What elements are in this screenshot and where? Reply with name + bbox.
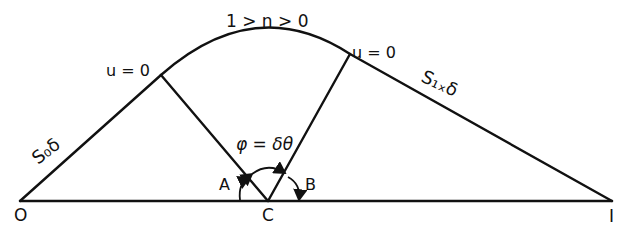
segment-right-junction-i <box>350 54 612 201</box>
point-o-label: O <box>14 205 27 225</box>
right-junction-label: u = 0 <box>352 43 396 62</box>
angle-a-label: A <box>219 175 230 194</box>
angle-b-arc <box>288 177 299 200</box>
angle-b-label: B <box>305 175 316 194</box>
angle-phi-arc <box>252 168 285 174</box>
point-c-label: C <box>262 205 274 225</box>
left-segment-label: S₀δ <box>28 133 64 168</box>
point-i-label: I <box>609 206 614 226</box>
arc-condition-label: 1 > n > 0 <box>226 11 309 31</box>
upper-arc <box>161 27 350 75</box>
segment-o-left-junction <box>20 75 161 201</box>
angle-relation-label: φ = δθ <box>236 134 294 154</box>
left-junction-label: u = 0 <box>106 61 150 80</box>
angle-a-arc <box>240 178 249 200</box>
diagram-canvas: 1 > n > 0 u = 0 u = 0 S₀δ S₁ₓδ φ = δθ A … <box>0 0 631 237</box>
